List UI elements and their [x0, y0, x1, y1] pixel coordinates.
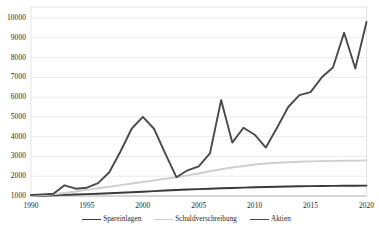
- legend-swatch-aktien: [250, 219, 269, 220]
- x-tick-label: 1995: [72, 202, 102, 209]
- plot-frame: [31, 7, 367, 196]
- chart-legend: Spareinlagen Schuldverschreibung Aktien: [0, 215, 373, 223]
- y-tick-label: 8000: [0, 54, 26, 61]
- legend-label-schuldverschreibung: Schuldverschreibung: [175, 215, 237, 223]
- y-tick-label: 5000: [0, 113, 26, 120]
- legend-item-spareinlagen[interactable]: Spareinlagen: [82, 215, 141, 223]
- x-tick-label: 2020: [352, 202, 379, 209]
- y-tick-label: 3000: [0, 153, 26, 160]
- x-tick-label: 2005: [184, 202, 214, 209]
- x-tick-label: 2000: [128, 202, 158, 209]
- y-tick-label: 9000: [0, 34, 26, 41]
- y-tick-label: 10000: [0, 14, 26, 21]
- x-tick-label: 1990: [16, 202, 46, 209]
- y-tick-label: 4000: [0, 133, 26, 140]
- x-tick-label: 2015: [296, 202, 326, 209]
- x-tick-label: 2010: [240, 202, 270, 209]
- legend-swatch-spareinlagen: [82, 219, 101, 220]
- y-tick-label: 7000: [0, 74, 26, 81]
- legend-label-aktien: Aktien: [271, 215, 291, 223]
- legend-item-schuldverschreibung[interactable]: Schuldverschreibung: [154, 215, 237, 223]
- legend-swatch-schuldverschreibung: [154, 219, 173, 220]
- y-tick-label: 6000: [0, 93, 26, 100]
- y-tick-label: 2000: [0, 173, 26, 180]
- legend-item-aktien[interactable]: Aktien: [250, 215, 291, 223]
- y-tick-label: 1000: [0, 192, 26, 199]
- legend-label-spareinlagen: Spareinlagen: [103, 215, 141, 223]
